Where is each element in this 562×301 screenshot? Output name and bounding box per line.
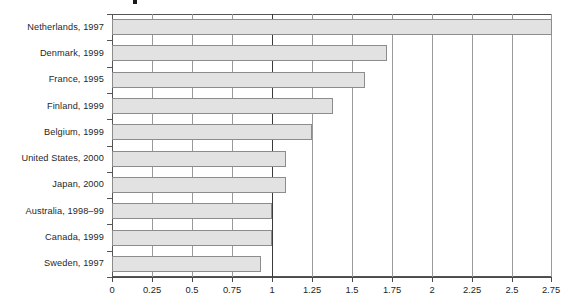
category-tick — [107, 198, 112, 199]
x-tick-label: 1.75 — [383, 284, 401, 295]
x-tick — [352, 277, 353, 282]
x-tick — [272, 277, 273, 282]
x-tick — [472, 277, 473, 282]
x-tick-label: 0 — [109, 284, 114, 295]
category-tick — [107, 40, 112, 41]
category-label: Denmark, 1999 — [0, 48, 104, 59]
x-tick-label: 0.5 — [185, 284, 198, 295]
bar — [112, 98, 333, 114]
x-tick-label: 1.5 — [345, 284, 358, 295]
bar-chart: Netherlands, 1997Denmark, 1999France, 19… — [0, 0, 562, 301]
category-tick — [107, 14, 112, 15]
x-tick-label: 1 — [269, 284, 274, 295]
category-label: Japan, 2000 — [0, 179, 104, 190]
category-tick — [107, 172, 112, 173]
plot-area — [112, 14, 552, 277]
x-tick — [551, 277, 552, 282]
x-tick-label: 0.75 — [223, 284, 241, 295]
category-tick — [107, 67, 112, 68]
x-tick — [232, 277, 233, 282]
bar — [112, 72, 365, 88]
x-tick-label: 0.25 — [143, 284, 161, 295]
category-tick — [107, 251, 112, 252]
x-tick — [512, 277, 513, 282]
category-tick — [107, 93, 112, 94]
bar — [112, 151, 286, 167]
x-tick — [392, 277, 393, 282]
gridline — [512, 14, 513, 277]
gridline — [472, 14, 473, 277]
category-label: Finland, 1999 — [0, 101, 104, 112]
x-tick-label: 2 — [429, 284, 434, 295]
x-tick — [152, 277, 153, 282]
gridline — [432, 14, 433, 277]
x-axis-line — [112, 277, 552, 278]
category-label: Australia, 1998–99 — [0, 206, 104, 217]
bar — [112, 124, 312, 140]
bar — [112, 19, 552, 35]
gridline — [392, 14, 393, 277]
x-tick-label: 2.75 — [542, 284, 560, 295]
bar — [112, 230, 272, 246]
category-label: Canada, 1999 — [0, 232, 104, 243]
x-tick — [192, 277, 193, 282]
x-tick — [112, 277, 113, 282]
bar — [112, 177, 286, 193]
category-label: Netherlands, 1997 — [0, 22, 104, 33]
category-label: Sweden, 1997 — [0, 258, 104, 269]
x-tick — [432, 277, 433, 282]
category-tick — [107, 224, 112, 225]
category-label: Belgium, 1999 — [0, 127, 104, 138]
title-descender-artifact — [133, 0, 137, 4]
x-tick — [312, 277, 313, 282]
bar — [112, 45, 387, 61]
x-tick-label: 2.25 — [463, 284, 481, 295]
x-tick-label: 2.5 — [505, 284, 518, 295]
category-label: France, 1995 — [0, 74, 104, 85]
plot-frame-top — [112, 14, 552, 15]
gridline — [551, 14, 552, 277]
category-axis-labels: Netherlands, 1997Denmark, 1999France, 19… — [0, 14, 104, 277]
category-tick — [107, 146, 112, 147]
bar — [112, 203, 272, 219]
category-tick — [107, 119, 112, 120]
bar — [112, 256, 261, 272]
category-label: United States, 2000 — [0, 153, 104, 164]
x-tick-label: 1.25 — [303, 284, 321, 295]
